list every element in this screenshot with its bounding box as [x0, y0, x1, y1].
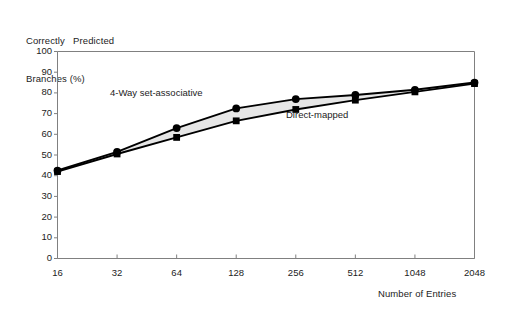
y-tick-label: 0	[30, 252, 52, 263]
y-tick-label: 70	[30, 107, 52, 118]
data-point-marker-circle	[173, 124, 181, 132]
x-axis-title: Number of Entries	[378, 288, 456, 301]
data-point-marker-square	[471, 80, 478, 87]
data-point-marker-circle	[232, 105, 240, 113]
x-tick-label: 256	[288, 267, 304, 278]
y-tick-label: 10	[30, 231, 52, 242]
data-point-marker-square	[54, 168, 61, 175]
series-annotation-four-way: 4-Way set-associative	[110, 87, 203, 98]
plot-area: 4-Way set-associativeDirect-mapped	[0, 0, 508, 315]
x-tick-label: 64	[171, 267, 182, 278]
x-tick-label: 1048	[404, 267, 425, 278]
x-tick-label: 32	[112, 267, 123, 278]
data-point-marker-square	[173, 134, 180, 141]
x-tick-label: 2048	[464, 267, 485, 278]
x-tick-label: 512	[347, 267, 363, 278]
x-tick-label: 128	[228, 267, 244, 278]
y-tick-marks	[54, 52, 58, 259]
data-point-marker-square	[114, 151, 121, 158]
data-point-marker-circle	[292, 95, 300, 103]
x-tick-label: 16	[52, 267, 63, 278]
y-tick-label: 30	[30, 190, 52, 201]
y-tick-label: 60	[30, 128, 52, 139]
data-point-marker-square	[233, 117, 240, 124]
y-tick-label: 80	[30, 86, 52, 97]
y-tick-label: 50	[30, 149, 52, 160]
series-annotation-direct-mapped: Direct-mapped	[286, 109, 348, 120]
y-tick-label: 20	[30, 211, 52, 222]
y-tick-label: 40	[30, 169, 52, 180]
x-tick-marks	[58, 255, 475, 259]
y-tick-label: 100	[30, 45, 52, 56]
y-tick-label: 90	[30, 66, 52, 77]
branch-prediction-chart: Correctly Predicted Branches (%) 4-Way s…	[0, 0, 508, 315]
data-point-marker-square	[352, 97, 359, 104]
data-point-marker-square	[412, 88, 419, 95]
